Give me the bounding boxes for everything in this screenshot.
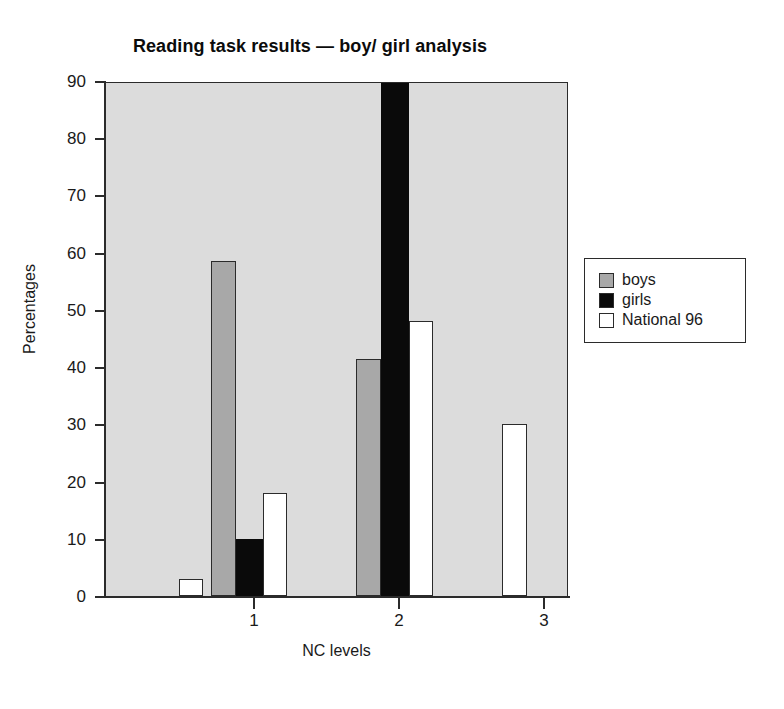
legend-item-label: boys (622, 271, 656, 289)
legend-swatch-icon (599, 293, 614, 308)
bar-boys-level-1 (211, 261, 236, 596)
y-tick-label: 60 (40, 245, 86, 262)
bar-national-96-level-w (179, 579, 203, 596)
y-tick-mark (95, 195, 105, 197)
legend-item-girls[interactable]: girls (599, 291, 733, 309)
plot-area (105, 82, 568, 597)
y-tick-mark (95, 81, 105, 83)
x-axis-line (104, 596, 570, 598)
bar-girls-level-2 (381, 82, 409, 596)
y-tick-mark (95, 424, 105, 426)
y-tick-label: 20 (40, 474, 86, 491)
x-tick-label: 2 (379, 611, 419, 631)
legend-swatch-icon (599, 273, 614, 288)
y-tick-mark (95, 596, 105, 598)
bar-national-96-level-3 (502, 424, 527, 596)
legend-item-label: girls (622, 291, 651, 309)
x-tick-label: 1 (234, 611, 274, 631)
y-tick-label: 90 (40, 73, 86, 90)
legend-swatch-icon (599, 313, 614, 328)
chart-title: Reading task results — boy/ girl analysi… (0, 36, 620, 57)
y-tick-label: 0 (40, 588, 86, 605)
x-tick-mark (398, 597, 400, 609)
x-axis-title: NC levels (105, 642, 568, 660)
x-tick-mark (253, 597, 255, 609)
chart-legend: boysgirlsNational 96 (584, 258, 746, 343)
legend-item-national-96[interactable]: National 96 (599, 311, 733, 329)
y-tick-label: 50 (40, 302, 86, 319)
bar-national-96-level-1 (263, 493, 287, 596)
y-tick-mark (95, 253, 105, 255)
x-tick-mark (543, 597, 545, 609)
y-tick-mark (95, 138, 105, 140)
y-tick-label: 80 (40, 130, 86, 147)
y-tick-label: 40 (40, 359, 86, 376)
y-axis-line (104, 81, 106, 598)
legend-item-boys[interactable]: boys (599, 271, 733, 289)
y-tick-label: 30 (40, 416, 86, 433)
y-axis-title: Percentages (21, 219, 39, 399)
legend-item-label: National 96 (622, 311, 703, 329)
y-tick-mark (95, 539, 105, 541)
y-tick-mark (95, 482, 105, 484)
chart-figure: Reading task results — boy/ girl analysi… (0, 0, 784, 709)
bar-boys-level-2 (356, 359, 381, 596)
bar-national-96-level-2 (409, 321, 433, 596)
y-tick-mark (95, 310, 105, 312)
x-tick-label: 3 (524, 611, 564, 631)
y-tick-label: 70 (40, 187, 86, 204)
y-tick-mark (95, 367, 105, 369)
y-tick-label: 10 (40, 531, 86, 548)
bar-girls-level-1 (236, 539, 263, 596)
